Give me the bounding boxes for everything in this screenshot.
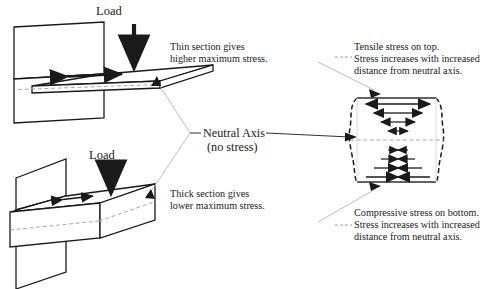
- load-label-thin: Load: [96, 4, 122, 19]
- tensile-note-line3: distance from neutral axis.: [354, 65, 462, 77]
- tensile-note-line1: Tensile stress on top.: [354, 41, 439, 53]
- compressive-note-line1: Compressive stress on bottom.: [354, 207, 479, 219]
- thin-section-note-line2: higher maximum stress.: [170, 53, 268, 65]
- compression-arrow-rows: [366, 150, 430, 177]
- thin-section-cantilever: [14, 22, 213, 123]
- tensile-note-line2: Stress increases with increased: [354, 53, 480, 65]
- leader-thin-to-neutral-axis: [156, 80, 190, 133]
- thin-wall-plate-upper: [14, 22, 104, 79]
- thick-section-note-line1: Thick section gives: [170, 188, 249, 200]
- neutral-axis-label-line2: (no stress): [207, 140, 257, 155]
- thin-section-note-line1: Thin section gives: [170, 41, 245, 53]
- thick-section-note-line2: lower maximum stress.: [170, 200, 265, 212]
- neutral-axis-to-block-leader: [266, 133, 357, 142]
- leader-thick-to-neutral-axis: [150, 133, 190, 193]
- load-label-thick: Load: [89, 148, 115, 163]
- compressive-note-line2: Stress increases with increased: [354, 219, 480, 231]
- neutral-axis-leader-group: [145, 76, 201, 199]
- bending-stress-figure: Load Load Thin section gives higher maxi…: [0, 0, 495, 289]
- neutral-axis-label-line1: Neutral Axis: [203, 126, 265, 141]
- leader-na-right: [266, 133, 350, 137]
- leader-compressive-arrowhead: [369, 182, 381, 191]
- thick-section-cantilever: [10, 159, 155, 289]
- bending-stress-distribution: [318, 57, 444, 225]
- leader-tensile-arrowhead: [369, 89, 381, 98]
- tension-arrow-rows: [366, 104, 430, 131]
- compressive-note-line3: distance from neutral axis.: [354, 231, 462, 243]
